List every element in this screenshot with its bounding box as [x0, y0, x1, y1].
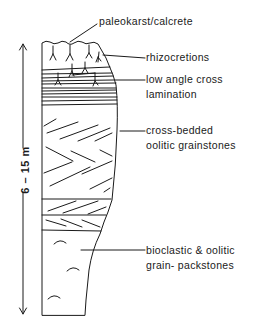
label-line: lamination	[146, 87, 223, 102]
label-line: oolitic grainstones	[146, 138, 236, 153]
label-line: cross-bedded	[146, 123, 236, 138]
label-rhizocretions: rhizocretions	[146, 50, 209, 65]
low-angle-lamination	[42, 67, 117, 105]
cross-bedding	[42, 119, 112, 231]
label-line: rhizocretions	[146, 51, 209, 63]
scale-label: 6 – 15 m	[19, 161, 31, 179]
label-cross-bedded-grainstones: cross-bedded oolitic grainstones	[146, 123, 236, 153]
label-bioclastic-packstones: bioclastic & oolitic grain- packstones	[146, 243, 235, 273]
label-line: paleokarst/calcrete	[99, 15, 193, 27]
label-paleokarst: paleokarst/calcrete	[99, 14, 193, 29]
label-line: low angle cross	[146, 72, 223, 87]
label-low-angle-cross-lamination: low angle cross lamination	[146, 72, 223, 102]
bioclast-symbols	[48, 241, 79, 299]
leader-paleokarst	[70, 24, 97, 42]
label-line: bioclastic & oolitic	[146, 243, 235, 258]
leader-rhizocretions	[103, 55, 145, 58]
column-outline	[42, 41, 117, 315]
label-line: grain- packstones	[146, 258, 235, 273]
stratigraphic-column-drawing	[0, 0, 260, 330]
